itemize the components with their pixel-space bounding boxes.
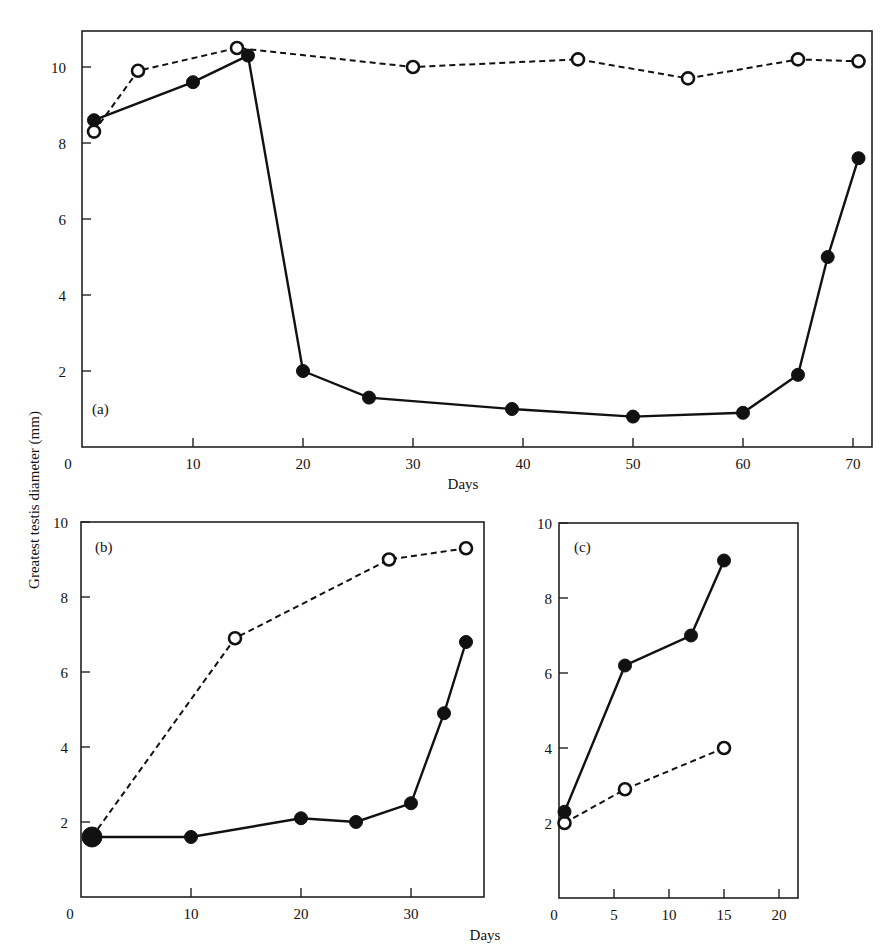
x-tick-label: 5 <box>610 907 618 923</box>
x-axis-title-bc: Days <box>470 927 501 943</box>
series-line-open-dashed <box>565 748 725 823</box>
filled-circle-marker-icon <box>852 152 865 165</box>
series-line-filled-solid <box>565 561 725 812</box>
open-circle-marker-icon <box>559 817 571 829</box>
open-circle-marker-icon <box>853 55 865 67</box>
x-tick-label: 30 <box>404 906 419 922</box>
filled-circle-marker-icon <box>558 805 571 818</box>
filled-circle-marker-icon <box>718 554 731 567</box>
filled-circle-marker-icon <box>295 812 308 825</box>
filled-circle-marker-icon <box>187 76 200 89</box>
filled-circle-marker-icon <box>821 251 834 264</box>
x-tick-label: 50 <box>626 456 641 472</box>
x-axis-title-a: Days <box>448 476 479 492</box>
filled-circle-marker-icon <box>350 816 363 829</box>
open-circle-marker-icon <box>88 126 100 138</box>
x-tick-label: 20 <box>294 906 309 922</box>
filled-circle-marker-icon <box>506 403 519 416</box>
open-circle-marker-icon <box>682 72 694 84</box>
x-tick-label: 0 <box>66 906 74 922</box>
open-circle-marker-icon <box>383 554 395 566</box>
open-circle-marker-icon <box>792 53 804 65</box>
panel-a-chart: 246810010203040506070(a) <box>51 31 872 472</box>
x-tick-label: 70 <box>846 456 861 472</box>
y-tick-label: 2 <box>61 815 69 831</box>
filled-circle-marker-icon <box>619 659 632 672</box>
y-tick-label: 6 <box>59 212 67 228</box>
x-tick-label: 60 <box>736 456 751 472</box>
open-circle-marker-icon <box>132 65 144 77</box>
y-tick-label: 10 <box>53 515 68 531</box>
plot-frame <box>559 523 798 898</box>
panel-c-chart: 24681005101520(c) <box>537 516 798 923</box>
filled-circle-marker-icon <box>460 636 473 649</box>
y-tick-label: 4 <box>61 740 69 756</box>
y-tick-label: 2 <box>59 364 67 380</box>
y-tick-label: 8 <box>59 136 67 152</box>
filled-circle-marker-icon <box>627 410 640 423</box>
open-circle-marker-icon <box>229 632 241 644</box>
filled-circle-marker-icon <box>405 797 418 810</box>
x-tick-label: 0 <box>550 907 558 923</box>
x-tick-label: 40 <box>516 456 531 472</box>
panel-b-chart: 2468100102030(b) <box>53 515 484 922</box>
y-axis-title: Greatest testis diameter (mm) <box>26 411 43 589</box>
x-tick-label: 20 <box>772 907 787 923</box>
panel-label: (a) <box>92 401 109 418</box>
filled-circle-marker-icon <box>88 114 101 127</box>
open-circle-marker-icon <box>231 42 243 54</box>
open-circle-marker-icon <box>407 61 419 73</box>
y-tick-label: 2 <box>545 816 553 832</box>
x-tick-label: 20 <box>296 456 311 472</box>
open-circle-marker-icon <box>460 542 472 554</box>
open-circle-marker-icon <box>718 742 730 754</box>
y-tick-label: 10 <box>51 60 66 76</box>
x-tick-label: 10 <box>186 456 201 472</box>
y-tick-label: 6 <box>545 666 553 682</box>
y-tick-label: 4 <box>59 288 67 304</box>
open-circle-marker-icon <box>619 783 631 795</box>
y-tick-label: 10 <box>537 516 552 532</box>
filled-circle-marker-icon <box>363 391 376 404</box>
filled-circle-marker-icon <box>242 49 255 62</box>
x-tick-label: 10 <box>662 907 677 923</box>
panel-label: (c) <box>574 539 591 556</box>
filled-circle-marker-icon <box>792 368 805 381</box>
y-tick-label: 8 <box>61 590 69 606</box>
series-line-open-dashed <box>92 548 466 837</box>
y-tick-label: 8 <box>545 591 553 607</box>
y-tick-label: 6 <box>61 665 69 681</box>
series-line-open-dashed <box>94 48 859 132</box>
panel-label: (b) <box>95 539 113 556</box>
filled-circle-marker-icon <box>685 629 698 642</box>
filled-circle-marker-icon <box>737 406 750 419</box>
filled-circle-marker-icon <box>82 827 102 847</box>
plot-frame <box>82 31 872 447</box>
filled-circle-marker-icon <box>297 365 310 378</box>
figure-canvas: 246810010203040506070(a) 2468100102030(b… <box>0 0 892 948</box>
open-circle-marker-icon <box>572 53 584 65</box>
filled-circle-marker-icon <box>438 707 451 720</box>
plot-frame <box>81 522 484 897</box>
x-tick-label: 10 <box>184 906 199 922</box>
x-tick-label: 15 <box>717 907 732 923</box>
x-tick-label: 0 <box>64 456 72 472</box>
x-tick-label: 30 <box>406 456 421 472</box>
y-tick-label: 4 <box>545 741 553 757</box>
series-line-filled-solid <box>94 56 859 417</box>
filled-circle-marker-icon <box>185 831 198 844</box>
